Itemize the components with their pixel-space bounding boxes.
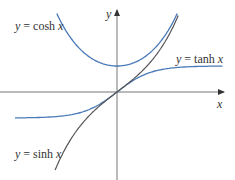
sinh-label: y = sinh x: [14, 147, 62, 161]
y-axis-label: y: [105, 7, 112, 21]
x-axis-label: x: [216, 97, 223, 111]
cosh-label: y = cosh x: [14, 19, 64, 33]
hyperbolic-functions-plot: x y y = cosh x y = tanh x y = sinh x: [0, 0, 235, 180]
tanh-label: y = tanh x: [175, 52, 224, 66]
